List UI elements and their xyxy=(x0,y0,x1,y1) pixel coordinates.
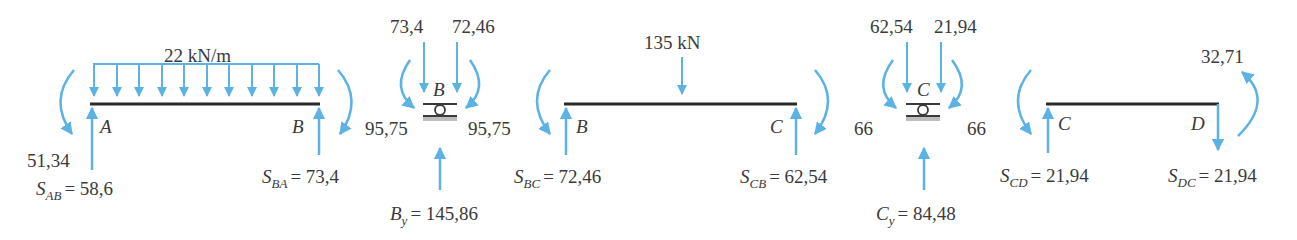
shear-label-ba: SBA= 73,4 xyxy=(262,166,340,191)
joint-b-label: B xyxy=(433,79,445,100)
point-load-label: 135 kN xyxy=(644,32,701,53)
reaction-label-by: By= 145,86 xyxy=(390,203,478,228)
reaction-label-cy: Cy= 84,48 xyxy=(876,203,956,228)
joint-b-moment-right xyxy=(466,60,479,108)
joint-c-moment-left-value: 66 xyxy=(854,118,873,139)
shear-label-ab: SAB= 58,6 xyxy=(36,178,113,203)
segment-ab: 22 kN/m A B 51,34 SAB= 58,6 SBA= 73,4 xyxy=(27,45,352,203)
shear-label-cb: SCB= 62,54 xyxy=(740,166,828,191)
moment-value-d: 32,71 xyxy=(1201,46,1244,67)
joint-c-force-left: 62,54 xyxy=(870,16,913,37)
node-label-c2: C xyxy=(1058,113,1071,134)
joint-c-label: C xyxy=(917,79,930,100)
joint-b-force-left: 73,4 xyxy=(390,16,424,37)
joint-b-moment-left xyxy=(401,60,414,108)
joint-c-moment-left xyxy=(883,60,896,108)
segment-cd: C D 32,71 SCD= 21,94 SDC= 21,94 xyxy=(1000,46,1258,190)
moment-arrow-cb xyxy=(815,70,828,134)
roller-support-c-icon xyxy=(906,104,940,121)
shear-label-cd: SCD= 21,94 xyxy=(1000,165,1089,190)
joint-b: 73,4 72,46 B 95,75 95,75 By= 145,86 xyxy=(365,16,511,228)
node-label-b2: B xyxy=(576,116,588,137)
node-label-c: C xyxy=(770,116,783,137)
roller-support-b-icon xyxy=(423,104,457,121)
node-label-d: D xyxy=(1190,113,1205,134)
joint-b-moment-left-value: 95,75 xyxy=(365,118,408,139)
joint-c-force-right: 21,94 xyxy=(934,16,977,37)
node-label-a: A xyxy=(98,116,112,137)
moment-arrow-cd xyxy=(1018,70,1031,134)
distributed-load-arrows xyxy=(94,64,319,96)
moment-arrow-ba xyxy=(338,70,352,134)
node-label-b: B xyxy=(292,116,304,137)
joint-c-moment-right-value: 66 xyxy=(967,118,986,139)
moment-value-a: 51,34 xyxy=(27,150,70,171)
moment-arrow-dc xyxy=(1238,72,1258,136)
moment-arrow-a xyxy=(60,70,74,134)
shear-label-dc: SDC= 21,94 xyxy=(1168,165,1257,190)
free-body-diagrams: 22 kN/m A B 51,34 SAB= 58,6 SBA= 73,4 73… xyxy=(0,0,1297,240)
segment-bc: 135 kN B C SBC= 72,46 SCB= 62,54 xyxy=(514,32,828,191)
joint-c-moment-right xyxy=(949,60,962,108)
shear-label-bc: SBC= 72,46 xyxy=(514,166,601,191)
joint-b-moment-right-value: 95,75 xyxy=(468,118,511,139)
joint-b-force-right: 72,46 xyxy=(452,16,495,37)
joint-c: 62,54 21,94 C 66 66 Cy= 84,48 xyxy=(854,16,986,228)
moment-arrow-bc xyxy=(537,70,550,134)
distributed-load-label: 22 kN/m xyxy=(164,45,231,66)
